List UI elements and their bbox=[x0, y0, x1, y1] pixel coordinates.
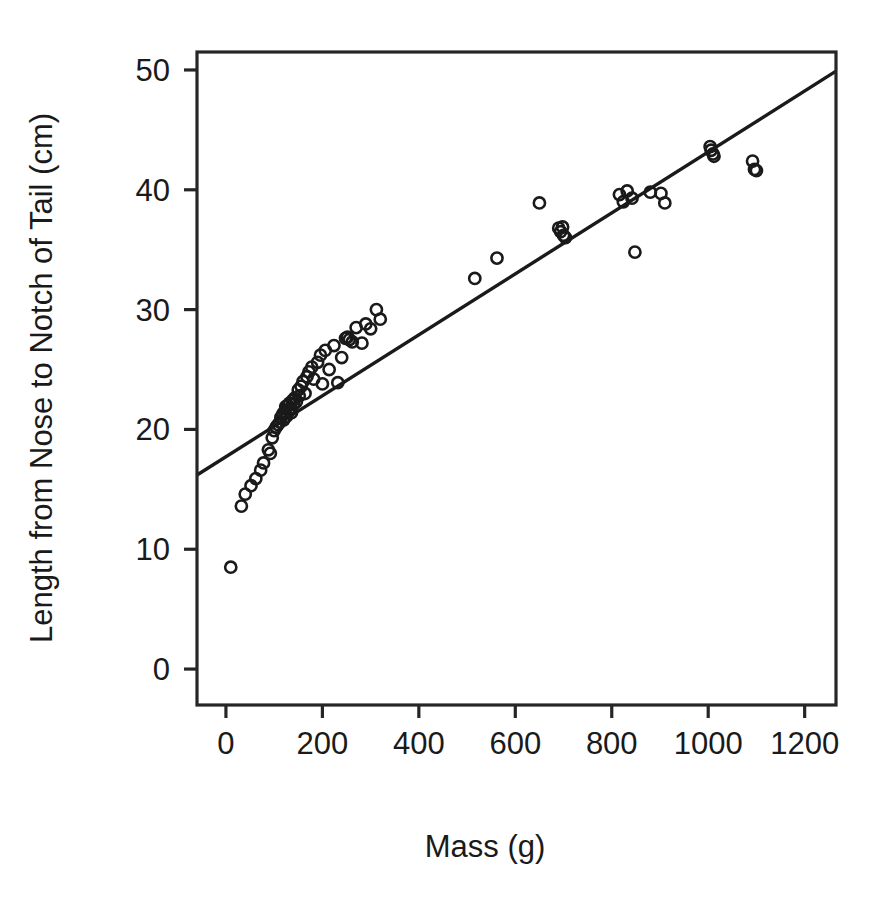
x-tick-label: 1200 bbox=[770, 726, 839, 761]
data-point bbox=[469, 273, 480, 284]
y-tick-label: 10 bbox=[136, 532, 170, 567]
data-point bbox=[324, 364, 335, 375]
y-axis-ticks bbox=[184, 70, 197, 669]
x-tick-label: 400 bbox=[393, 726, 445, 761]
y-tick-label: 40 bbox=[136, 173, 170, 208]
x-axis-tick-labels: 020040060080010001200 bbox=[217, 726, 839, 761]
plot-frame bbox=[197, 52, 836, 705]
data-point bbox=[236, 501, 247, 512]
x-tick-label: 600 bbox=[489, 726, 541, 761]
y-axis-title: Length from Nose to Notch of Tail (cm) bbox=[24, 113, 59, 643]
x-tick-label: 800 bbox=[586, 726, 638, 761]
y-tick-label: 50 bbox=[136, 53, 170, 88]
y-tick-label: 30 bbox=[136, 293, 170, 328]
x-tick-label: 1000 bbox=[674, 726, 743, 761]
data-point bbox=[336, 352, 347, 363]
x-tick-label: 200 bbox=[297, 726, 349, 761]
data-point bbox=[491, 252, 502, 263]
y-tick-label: 20 bbox=[136, 412, 170, 447]
scatter-plot-figure: 020040060080010001200 01020304050 Mass (… bbox=[0, 0, 890, 898]
x-axis-ticks bbox=[226, 705, 805, 718]
data-point bbox=[225, 562, 236, 573]
x-axis-title: Mass (g) bbox=[425, 829, 546, 864]
chart-canvas: 020040060080010001200 01020304050 Mass (… bbox=[0, 0, 890, 898]
y-tick-label: 0 bbox=[153, 652, 170, 687]
data-points bbox=[225, 141, 762, 573]
data-point bbox=[534, 197, 545, 208]
y-axis-tick-labels: 01020304050 bbox=[136, 53, 170, 687]
data-point bbox=[629, 246, 640, 257]
x-tick-label: 0 bbox=[217, 726, 234, 761]
